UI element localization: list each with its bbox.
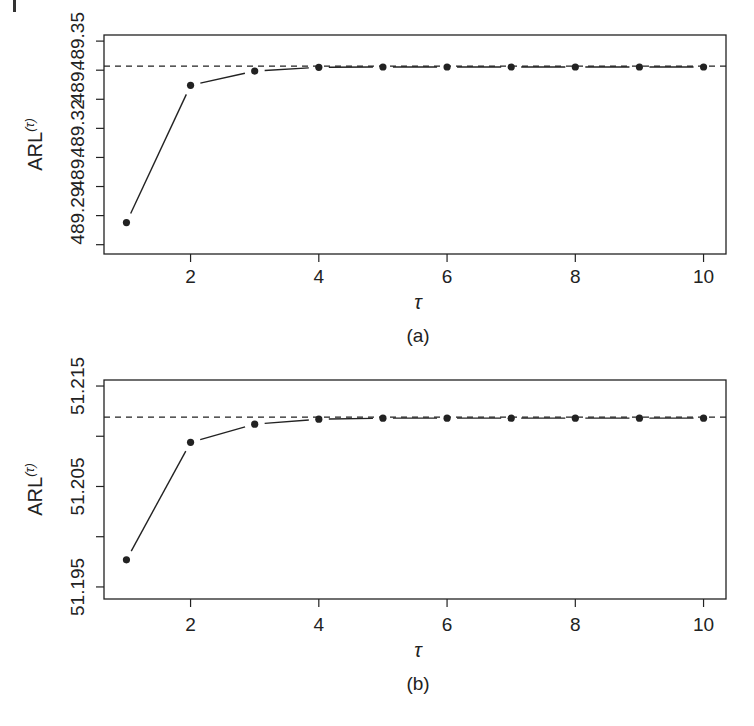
data-point (636, 415, 643, 422)
data-point (123, 219, 130, 226)
y-tick-label: 489.32 (67, 99, 88, 157)
x-tick-label: 2 (185, 266, 196, 287)
x-tick-label: 10 (693, 266, 714, 287)
y-tick-label: 489.35 (67, 12, 88, 70)
panel-caption: (b) (406, 673, 429, 694)
y-tick-label: 51.215 (67, 357, 88, 415)
series-segment (131, 94, 187, 213)
x-tick-label: 4 (314, 266, 325, 287)
data-point (508, 415, 515, 422)
y-tick-label: 489. (67, 66, 88, 103)
data-point (508, 63, 515, 70)
series-segment (131, 451, 186, 551)
y-axis-label: ARL(τ) (22, 118, 46, 170)
series-segment (265, 420, 309, 423)
series-segment (200, 73, 245, 83)
series-segment (329, 418, 373, 419)
chart-panel-b: 51.21551.20551.195246810τARL(τ)(b) (22, 357, 726, 694)
data-point (443, 63, 450, 70)
x-tick-label: 10 (693, 614, 714, 635)
data-point (123, 556, 130, 563)
data-point (251, 67, 258, 74)
data-point (636, 63, 643, 70)
data-point (379, 415, 386, 422)
x-tick-label: 8 (570, 266, 581, 287)
data-point (443, 415, 450, 422)
x-tick-label: 2 (185, 614, 196, 635)
x-tick-label: 6 (442, 614, 453, 635)
panel-caption: (a) (406, 325, 429, 346)
data-point (187, 82, 194, 89)
data-point (379, 63, 386, 70)
data-point (700, 63, 707, 70)
data-point (572, 415, 579, 422)
data-point (315, 416, 322, 423)
figure: 489.35489.489.32489.489.29246810τARL(τ)(… (0, 0, 754, 726)
series-segment (265, 68, 309, 71)
data-point (700, 415, 707, 422)
data-point (251, 421, 258, 428)
x-tick-label: 6 (442, 266, 453, 287)
y-tick-label: 489. (67, 153, 88, 190)
data-point (315, 64, 322, 71)
y-tick-label: 51.205 (67, 457, 88, 515)
chart-panel-a: 489.35489.489.32489.489.29246810τARL(τ)(… (22, 12, 726, 346)
x-tick-label: 8 (570, 614, 581, 635)
data-point (572, 63, 579, 70)
x-axis-label: τ (414, 639, 423, 661)
plot-frame (104, 380, 726, 599)
series-segment (200, 427, 245, 440)
y-tick-label: 489.29 (67, 187, 88, 245)
x-tick-label: 4 (314, 614, 325, 635)
plot-frame (104, 35, 726, 254)
data-point (187, 439, 194, 446)
y-axis-label: ARL(τ) (22, 463, 46, 515)
x-axis-label: τ (414, 291, 423, 313)
y-tick-label: 51.195 (67, 558, 88, 616)
